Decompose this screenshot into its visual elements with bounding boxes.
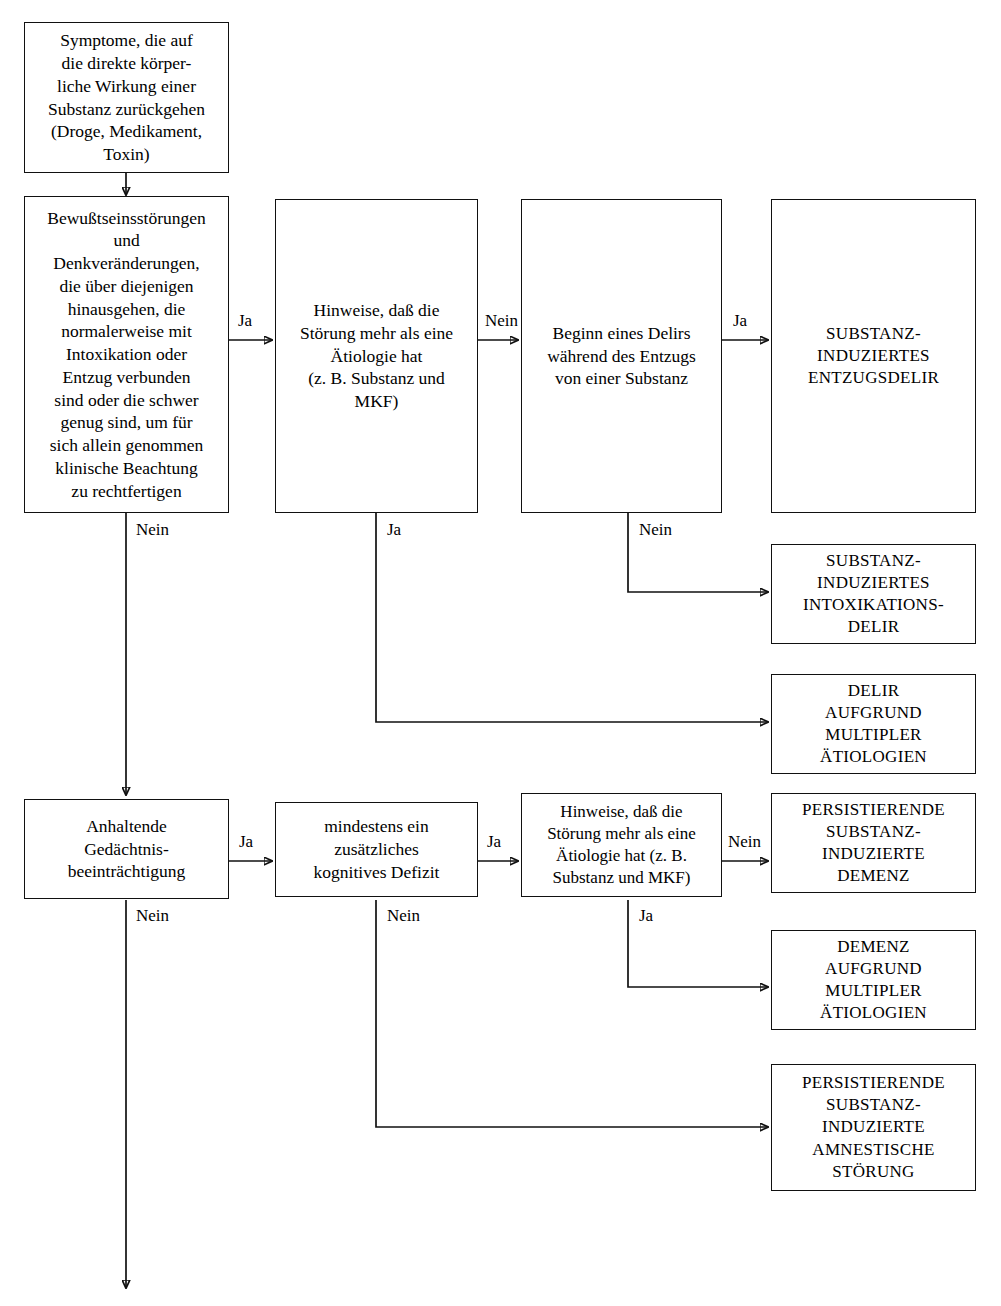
node-demenz-multipler-aetiologien[interactable]: DEMENZ AUFGRUND MULTIPLER ÄTIOLOGIEN [771, 930, 976, 1030]
edge-label-hinweise-demenz-nein: Nein [728, 833, 761, 850]
edge-hinweise-delir-ja [376, 513, 768, 722]
edge-kognitives-defizit-nein [376, 900, 768, 1127]
node-persistierende-amnestische-stoerung[interactable]: PERSISTIERENDE SUBSTANZ- INDUZIERTE AMNE… [771, 1064, 976, 1191]
node-hinweise-mehrere-aetiologien-demenz[interactable]: Hinweise, daß die Störung mehr als eine … [521, 793, 722, 897]
flowchart-canvas: Symptome, die auf die direkte körper- li… [0, 0, 1001, 1306]
node-symptome[interactable]: Symptome, die auf die direkte körper- li… [24, 22, 229, 173]
node-beginn-delir-entzug[interactable]: Beginn eines Delirs während des Entzugs … [521, 199, 722, 513]
node-substanzinduziertes-intoxikationsdelir[interactable]: SUBSTANZ- INDUZIERTES INTOXIKATIONS- DEL… [771, 544, 976, 644]
edge-label-hinweise-delir-nein: Nein [485, 312, 518, 329]
node-anhaltende-gedaechtnisbeeintraechtigung[interactable]: Anhaltende Gedächtnis- beeinträchtigung [24, 799, 229, 899]
edge-label-hinweise-demenz-ja: Ja [639, 907, 653, 924]
edge-label-hinweise-delir-ja: Ja [387, 521, 401, 538]
edge-label-beginn-delir-nein: Nein [639, 521, 672, 538]
node-delir-multipler-aetiologien[interactable]: DELIR AUFGRUND MULTIPLER ÄTIOLOGIEN [771, 674, 976, 774]
node-substanzinduziertes-entzugsdelir[interactable]: SUBSTANZ- INDUZIERTES ENTZUGSDELIR [771, 199, 976, 513]
node-hinweise-mehrere-aetiologien-delir[interactable]: Hinweise, daß die Störung mehr als eine … [275, 199, 478, 513]
node-persistierende-substanzinduzierte-demenz[interactable]: PERSISTIERENDE SUBSTANZ- INDUZIERTE DEME… [771, 793, 976, 893]
node-bewusstseinsstoerungen[interactable]: Bewußtseinsstörungen und Denkveränderung… [24, 196, 229, 513]
edge-label-gedaechtnis-ja: Ja [239, 833, 253, 850]
edge-label-kognitives-defizit-nein: Nein [387, 907, 420, 924]
edge-label-kognitives-defizit-ja: Ja [487, 833, 501, 850]
edge-label-bewusstsein-nein: Nein [136, 521, 169, 538]
edge-label-beginn-delir-ja: Ja [733, 312, 747, 329]
node-zusaetzliches-kognitives-defizit[interactable]: mindestens ein zusätzliches kognitives D… [275, 802, 478, 897]
edge-label-gedaechtnis-nein: Nein [136, 907, 169, 924]
edge-label-bewusstsein-ja: Ja [238, 312, 252, 329]
